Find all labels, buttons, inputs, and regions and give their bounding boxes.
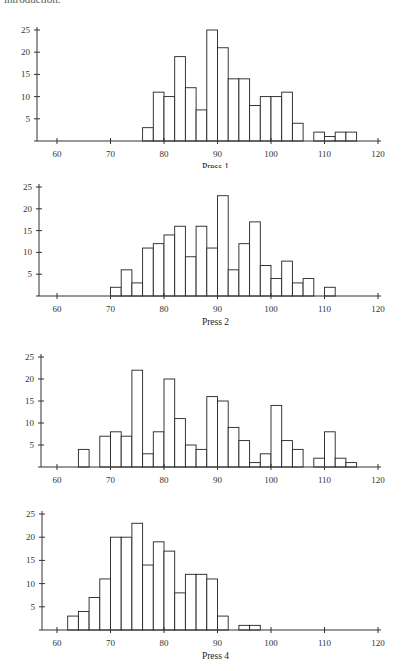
- x-tick-label: 70: [106, 475, 116, 485]
- histogram-bar: [218, 616, 229, 630]
- histogram-bar: [239, 244, 250, 296]
- histogram-bar: [153, 92, 164, 141]
- histogram-bar: [282, 261, 293, 296]
- histogram-bar: [218, 48, 229, 141]
- histogram-bar: [143, 565, 154, 630]
- histogram-bar: [78, 449, 89, 467]
- x-tick-label: 110: [318, 475, 332, 485]
- histogram-bar: [132, 370, 143, 467]
- y-tick-label: 5: [26, 114, 31, 124]
- y-tick-label: 20: [25, 374, 35, 384]
- histogram-bar: [196, 574, 207, 630]
- y-tick-label: 5: [30, 440, 35, 450]
- histogram-bar: [260, 97, 271, 141]
- histogram-press-3: 51015202560708090100110120Press 3: [0, 328, 404, 488]
- histogram-bar: [260, 265, 271, 296]
- y-tick-label: 15: [21, 69, 31, 79]
- histogram-press-4: 51015202560708090100110120Press 4: [0, 488, 404, 671]
- histogram-bar: [260, 454, 271, 467]
- histogram-bar: [196, 110, 207, 141]
- histogram-bar: [175, 57, 186, 141]
- histogram-bar: [153, 432, 164, 467]
- histogram-bar: [185, 257, 196, 296]
- histogram-bar: [143, 128, 154, 141]
- histogram-bar: [292, 449, 303, 467]
- histogram-bar: [228, 270, 239, 296]
- x-tick-label: 70: [106, 304, 116, 314]
- y-tick-label: 20: [26, 532, 36, 542]
- histogram-bar: [314, 132, 325, 141]
- x-tick-label: 70: [106, 638, 116, 648]
- x-tick-label: 100: [264, 638, 278, 648]
- histogram-bar: [207, 397, 218, 467]
- histogram-bar: [175, 419, 186, 467]
- x-tick-label: 60: [53, 638, 63, 648]
- histogram-bar: [271, 97, 282, 141]
- x-tick-label: 80: [160, 149, 170, 159]
- histogram-bar: [218, 401, 229, 467]
- histogram-bar: [207, 579, 218, 630]
- x-tick-label: 100: [264, 304, 278, 314]
- histogram-bar: [143, 454, 154, 467]
- x-tick-label: 120: [371, 149, 385, 159]
- x-tick-label: 90: [213, 475, 223, 485]
- y-tick-label: 10: [21, 92, 31, 102]
- histogram-bar: [132, 523, 143, 630]
- histogram-bar: [207, 30, 218, 141]
- histogram-bar: [89, 598, 100, 630]
- x-tick-label: 80: [160, 638, 170, 648]
- histogram-bar: [250, 463, 261, 467]
- histogram-bar: [100, 579, 111, 630]
- histogram-bar: [239, 79, 250, 141]
- histogram-bar: [218, 196, 229, 296]
- histogram-bar: [164, 551, 175, 630]
- x-tick-label: 90: [213, 149, 223, 159]
- histogram-press-1: 51015202560708090100110120Press 1: [0, 0, 404, 168]
- histogram-bar: [153, 244, 164, 296]
- histogram-bar: [303, 279, 314, 296]
- chart-title: Press 2: [202, 317, 229, 327]
- histogram-bar: [325, 287, 336, 296]
- histogram-bar: [335, 458, 346, 467]
- histogram-bar: [292, 123, 303, 141]
- histogram-bar: [100, 436, 111, 467]
- x-tick-label: 120: [371, 475, 385, 485]
- histogram-bar: [325, 137, 336, 141]
- histogram-bar: [185, 445, 196, 467]
- histogram-bar: [271, 279, 282, 296]
- y-tick-label: 5: [28, 269, 33, 279]
- histogram-bar: [228, 427, 239, 467]
- histogram-press-2: 51015202560708090100110120Press 2: [0, 168, 404, 328]
- x-tick-label: 60: [53, 304, 63, 314]
- histogram-bar: [250, 222, 261, 296]
- y-tick-label: 15: [26, 555, 36, 565]
- histogram-bar: [164, 97, 175, 141]
- histogram-bar: [271, 405, 282, 467]
- y-tick-label: 10: [23, 247, 33, 257]
- x-tick-label: 80: [160, 475, 170, 485]
- y-tick-label: 5: [31, 602, 36, 612]
- y-tick-label: 15: [23, 226, 33, 236]
- histogram-bar: [68, 616, 79, 630]
- x-tick-label: 110: [318, 638, 332, 648]
- histogram-bar: [175, 226, 186, 296]
- histogram-bar: [121, 270, 132, 296]
- histogram-bar: [121, 436, 132, 467]
- histogram-bar: [346, 463, 357, 467]
- histogram-bar: [239, 441, 250, 467]
- histogram-bar: [282, 441, 293, 467]
- histogram-bar: [185, 574, 196, 630]
- x-tick-label: 70: [106, 149, 116, 159]
- x-tick-label: 100: [264, 475, 278, 485]
- x-tick-label: 110: [318, 304, 332, 314]
- histogram-bar: [250, 105, 261, 141]
- y-tick-label: 15: [25, 396, 35, 406]
- histogram-bar: [346, 132, 357, 141]
- x-tick-label: 90: [213, 638, 223, 648]
- histogram-bar: [164, 379, 175, 467]
- histogram-bar: [121, 537, 132, 630]
- histogram-bar: [111, 537, 122, 630]
- y-tick-label: 25: [26, 509, 36, 519]
- y-tick-label: 10: [26, 579, 36, 589]
- histogram-bar: [185, 88, 196, 141]
